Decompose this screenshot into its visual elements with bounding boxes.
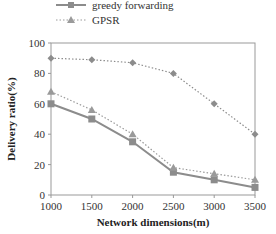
triangle-marker-icon	[88, 106, 96, 113]
diamond-marker-icon	[129, 59, 136, 66]
x-axis: 100015002000250030003500	[40, 195, 267, 212]
x-tick-label: 1000	[40, 200, 63, 212]
square-marker-icon	[68, 2, 74, 8]
square-marker-icon	[252, 184, 259, 191]
line-chart: greedy forwarding GPSR 020406080100 1000…	[0, 0, 276, 234]
diamond-marker-icon	[211, 100, 218, 107]
y-axis: 020406080100	[29, 37, 52, 201]
x-tick-label: 1500	[81, 200, 104, 212]
triangle-marker-icon	[129, 130, 137, 137]
triangle-marker-icon	[47, 88, 55, 95]
y-tick-label: 40	[34, 128, 46, 140]
legend-item-gpsr: GPSR	[56, 14, 120, 26]
series-greedy-forwarding	[48, 100, 259, 191]
legend-label: greedy forwarding	[92, 0, 174, 11]
diamond-marker-icon	[88, 56, 95, 63]
legend-item-greedy-forwarding: greedy forwarding	[56, 0, 174, 11]
square-marker-icon	[88, 116, 95, 123]
diamond-marker-icon	[252, 131, 259, 138]
x-axis-title: Network dimensions(m)	[97, 216, 210, 229]
y-tick-label: 100	[29, 37, 46, 49]
x-tick-label: 3500	[244, 200, 267, 212]
square-marker-icon	[48, 100, 55, 107]
y-tick-label: 80	[34, 67, 46, 79]
plot-area	[51, 43, 255, 195]
diamond-marker-icon	[48, 55, 55, 62]
series-gpsr	[47, 88, 259, 183]
series-group	[47, 55, 259, 191]
x-tick-label: 3000	[203, 200, 226, 212]
y-axis-title: Delivery ratio(%)	[5, 77, 18, 161]
legend: greedy forwarding GPSR	[56, 0, 174, 26]
square-marker-icon	[211, 176, 218, 183]
y-tick-label: 20	[34, 159, 46, 171]
x-tick-label: 2000	[122, 200, 145, 212]
y-tick-label: 60	[34, 98, 46, 110]
series-diamond	[48, 55, 259, 138]
square-marker-icon	[129, 138, 136, 145]
x-tick-label: 2500	[162, 200, 185, 212]
legend-label: GPSR	[92, 14, 120, 26]
